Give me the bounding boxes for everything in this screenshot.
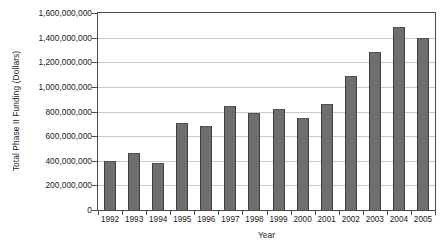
- y-axis-tick-mark: [92, 185, 97, 186]
- bar: [345, 76, 357, 210]
- bar-chart: Total Phase II Funding (Dollars) 0200,00…: [0, 0, 443, 246]
- x-axis-tick-label: 1995: [173, 215, 191, 224]
- x-axis-tick-label: 2004: [390, 215, 408, 224]
- bar: [297, 118, 309, 210]
- bars-container: [98, 13, 435, 210]
- y-axis-tick-mark: [92, 210, 97, 211]
- x-axis-tick-label: 1999: [269, 215, 287, 224]
- y-axis-tick-label: 1,600,000,000: [0, 8, 92, 18]
- x-axis-tick-label: 2002: [342, 215, 360, 224]
- bar: [273, 109, 285, 210]
- y-axis-tick-mark: [92, 13, 97, 14]
- x-axis-tick-mark: [435, 211, 436, 215]
- y-axis-tick-label: 1,200,000,000: [0, 57, 92, 67]
- bar: [176, 123, 188, 210]
- x-axis-tick-label: 2005: [414, 215, 432, 224]
- x-axis-tick-label: 2003: [366, 215, 384, 224]
- bar: [128, 153, 140, 210]
- bar: [321, 104, 333, 210]
- bar: [369, 52, 381, 210]
- x-axis-tick-label: 2000: [293, 215, 311, 224]
- y-axis-tick-mark: [92, 38, 97, 39]
- y-axis-tick-label: 600,000,000: [0, 131, 92, 141]
- y-axis-tick-label: 800,000,000: [0, 107, 92, 117]
- bar: [224, 106, 236, 210]
- bar: [393, 27, 405, 210]
- x-axis-tick-label: 1997: [221, 215, 239, 224]
- y-axis-tick-mark: [92, 161, 97, 162]
- x-axis-tick-label: 1994: [149, 215, 167, 224]
- x-axis-tick-label: 1992: [101, 215, 119, 224]
- x-axis-tick-label: 1993: [125, 215, 143, 224]
- y-axis-tick-label: 400,000,000: [0, 156, 92, 166]
- y-axis-tick-label: 200,000,000: [0, 180, 92, 190]
- y-axis-tick-label: 0: [0, 205, 92, 215]
- y-axis-tick-mark: [92, 87, 97, 88]
- bar: [200, 126, 212, 210]
- y-axis-tick-label: 1,000,000,000: [0, 82, 92, 92]
- y-axis-tick-mark: [92, 136, 97, 137]
- y-axis-tick-mark: [92, 112, 97, 113]
- x-axis-tick-label: 1998: [245, 215, 263, 224]
- bar: [417, 38, 429, 210]
- y-axis-tick-label: 1,400,000,000: [0, 33, 92, 43]
- y-axis-tick-labels: 0200,000,000400,000,000600,000,000800,00…: [0, 0, 92, 246]
- x-axis-tick-label: 1996: [197, 215, 215, 224]
- x-axis-tick-label: 2001: [318, 215, 336, 224]
- x-axis-title: Year: [97, 230, 436, 240]
- bar: [152, 163, 164, 210]
- x-axis-tick-labels: 1992199319941995199619971998199920002001…: [98, 215, 435, 229]
- bar: [104, 161, 116, 210]
- bar: [248, 113, 260, 210]
- y-axis-tick-mark: [92, 62, 97, 63]
